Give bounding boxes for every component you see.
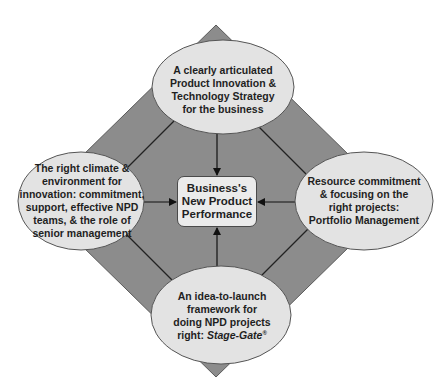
node-portfolio: Resource commitment & focusing on the ri… xyxy=(296,172,432,230)
node-strategy-line: A clearly articulated xyxy=(173,64,272,77)
node-strategy-line: for the business xyxy=(182,103,263,116)
center-performance-box: Business's New Product Performance xyxy=(177,176,257,227)
node-stage-gate-line: framework for xyxy=(187,303,257,316)
node-portfolio-line: Resource commitment xyxy=(307,175,420,188)
node-stage-gate-line: An idea-to-launch xyxy=(178,290,267,303)
registered-mark: ® xyxy=(262,330,266,336)
node-climate: The right climate & environment for inno… xyxy=(18,160,146,242)
center-line: New Product xyxy=(182,195,252,208)
node-strategy-line: Product Innovation & xyxy=(170,77,276,90)
node-climate-line: environment for xyxy=(42,175,122,188)
node-stage-gate-line: doing NPD projects xyxy=(173,316,270,329)
center-line: Performance xyxy=(182,208,252,221)
node-climate-line: senior management xyxy=(32,227,131,240)
node-climate-line: innovation: commitment, xyxy=(20,188,145,201)
stage-gate-prefix: right: xyxy=(177,329,207,341)
node-strategy: A clearly articulated Product Innovation… xyxy=(152,62,294,118)
node-portfolio-line: Portfolio Management xyxy=(309,214,419,227)
node-climate-line: support, effective NPD xyxy=(26,201,139,214)
node-stage-gate-line: right: Stage-Gate® xyxy=(177,329,267,342)
node-strategy-line: Technology Strategy xyxy=(171,90,274,103)
stage-gate-term: Stage-Gate xyxy=(207,329,262,341)
center-line: Business's xyxy=(187,182,247,195)
node-portfolio-line: right projects: xyxy=(329,201,400,214)
node-climate-line: The right climate & xyxy=(35,162,130,175)
node-climate-line: teams, & the role of xyxy=(33,214,130,227)
node-portfolio-line: & focusing on the xyxy=(320,188,409,201)
node-stage-gate: An idea-to-launch framework for doing NP… xyxy=(152,288,292,344)
